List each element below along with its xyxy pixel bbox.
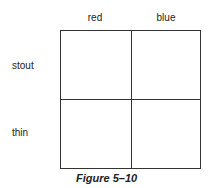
column-label-blue: blue: [131, 12, 201, 23]
cell-stout-blue: [132, 31, 200, 99]
row-label-stout: stout: [12, 60, 34, 71]
horizontal-divider: [61, 99, 200, 100]
cell-thin-blue: [132, 100, 200, 168]
column-label-red: red: [60, 12, 130, 23]
two-by-two-grid: [60, 30, 201, 169]
row-label-thin: thin: [12, 127, 28, 138]
figure-caption: Figure 5–10: [76, 172, 137, 184]
cell-thin-red: [61, 100, 131, 168]
cell-stout-red: [61, 31, 131, 99]
